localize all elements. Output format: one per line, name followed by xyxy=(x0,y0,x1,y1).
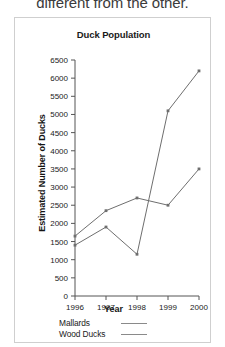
y-tick-label: 0 xyxy=(64,292,69,301)
chart-legend: Mallards Wood Ducks xyxy=(59,317,147,339)
data-point-marker xyxy=(136,197,139,200)
series-line-mallards xyxy=(75,169,199,236)
legend-line-mallards xyxy=(121,323,147,324)
y-tick-label: 3500 xyxy=(50,165,68,174)
data-point-marker xyxy=(105,209,108,212)
truncated-body-text: different from the other. xyxy=(0,0,225,11)
y-tick-label: 5000 xyxy=(50,110,68,119)
y-tick-label: 4000 xyxy=(50,147,68,156)
line-chart-svg: 0500100015002000250030003500400045005000… xyxy=(15,18,212,318)
y-tick-label: 2500 xyxy=(50,201,68,210)
y-tick-label: 4500 xyxy=(50,129,68,138)
data-point-marker xyxy=(198,168,201,171)
chart-figure: Duck Population Estimated Number of Duck… xyxy=(14,17,211,343)
series-line-wood-ducks xyxy=(75,71,199,254)
data-point-marker xyxy=(136,253,139,256)
data-point-marker xyxy=(198,69,201,72)
legend-line-wood-ducks xyxy=(121,334,147,335)
x-axis-label: Year xyxy=(15,304,212,314)
data-point-marker xyxy=(74,244,77,247)
data-point-marker xyxy=(105,226,108,229)
data-point-marker xyxy=(74,235,77,238)
data-point-marker xyxy=(167,109,170,112)
plot-area: 0500100015002000250030003500400045005000… xyxy=(15,18,212,318)
y-tick-label: 6000 xyxy=(50,74,68,83)
y-tick-label: 6500 xyxy=(50,56,68,65)
y-tick-label: 3000 xyxy=(50,183,68,192)
y-tick-label: 2000 xyxy=(50,219,68,228)
y-tick-label: 1000 xyxy=(50,256,68,265)
legend-label-wood-ducks: Wood Ducks xyxy=(59,329,119,339)
legend-item-wood-ducks: Wood Ducks xyxy=(59,328,147,339)
data-point-marker xyxy=(167,204,170,207)
legend-item-mallards: Mallards xyxy=(59,317,147,328)
legend-label-mallards: Mallards xyxy=(59,318,119,328)
y-tick-label: 1500 xyxy=(50,238,68,247)
y-tick-label: 500 xyxy=(55,274,69,283)
y-tick-label: 5500 xyxy=(50,92,68,101)
